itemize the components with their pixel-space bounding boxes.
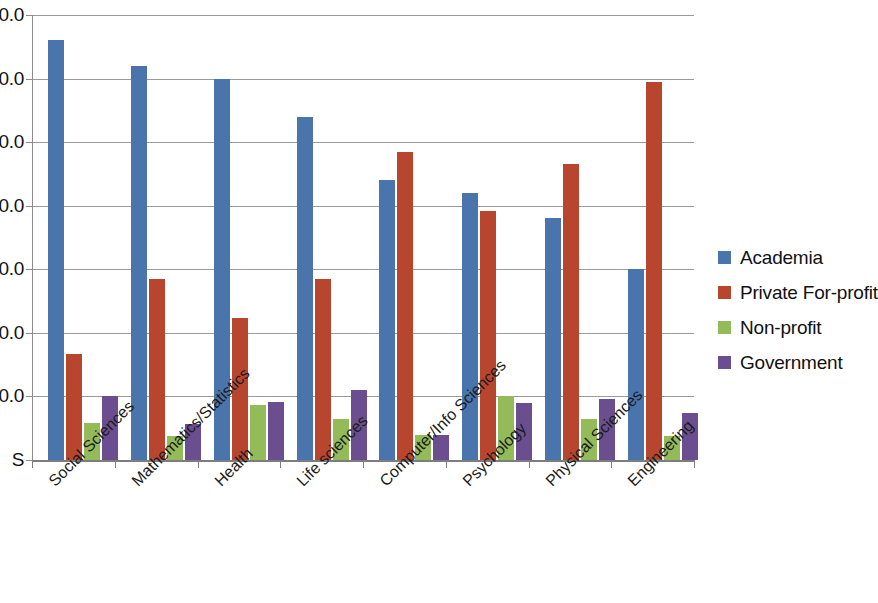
x-tick-mark bbox=[363, 460, 364, 468]
bar bbox=[379, 180, 395, 460]
bar bbox=[315, 279, 331, 460]
bar bbox=[131, 66, 147, 460]
x-tick-mark bbox=[446, 460, 447, 468]
x-tick-mark bbox=[529, 460, 530, 468]
x-tick-mark bbox=[694, 460, 695, 468]
bar-group bbox=[545, 15, 615, 460]
legend-label: Academia bbox=[740, 247, 823, 269]
legend-item[interactable]: Private For-profit bbox=[718, 275, 878, 310]
x-tick-mark bbox=[32, 460, 33, 468]
x-tick-mark bbox=[611, 460, 612, 468]
bar bbox=[397, 152, 413, 460]
bar bbox=[646, 82, 662, 460]
legend-swatch-icon bbox=[718, 356, 731, 369]
legend-label: Non-profit bbox=[740, 317, 821, 339]
y-tick-label: 70.0 bbox=[0, 5, 24, 24]
bar bbox=[268, 402, 284, 460]
legend-item[interactable]: Academia bbox=[718, 240, 878, 275]
y-tick-label: S bbox=[0, 450, 24, 469]
bar-chart: 70.060.050.040.030.020.010.0S Social Sci… bbox=[0, 0, 878, 603]
y-tick-label: 30.0 bbox=[0, 259, 24, 278]
x-tick-mark bbox=[198, 460, 199, 468]
bar bbox=[480, 211, 496, 460]
bar bbox=[462, 193, 478, 460]
chart-legend: AcademiaPrivate For-profitNon-profitGove… bbox=[718, 240, 878, 380]
bar bbox=[628, 269, 644, 460]
x-tick-mark bbox=[280, 460, 281, 468]
y-tick-label: 20.0 bbox=[0, 323, 24, 342]
legend-label: Government bbox=[740, 352, 843, 374]
bar-group bbox=[48, 15, 118, 460]
plot-area bbox=[32, 15, 694, 460]
legend-swatch-icon bbox=[718, 286, 731, 299]
legend-item[interactable]: Non-profit bbox=[718, 310, 878, 345]
bar bbox=[563, 164, 579, 460]
y-tick-label: 10.0 bbox=[0, 386, 24, 405]
bar bbox=[250, 405, 266, 460]
y-tick-label: 40.0 bbox=[0, 196, 24, 215]
bar bbox=[297, 117, 313, 460]
legend-label: Private For-profit bbox=[740, 282, 878, 304]
y-tick-label: 60.0 bbox=[0, 69, 24, 88]
bar-group bbox=[131, 15, 201, 460]
bar bbox=[48, 40, 64, 460]
bar bbox=[545, 218, 561, 460]
bar bbox=[149, 279, 165, 460]
legend-swatch-icon bbox=[718, 321, 731, 334]
x-tick-mark bbox=[115, 460, 116, 468]
legend-swatch-icon bbox=[718, 251, 731, 264]
legend-item[interactable]: Government bbox=[718, 345, 878, 380]
y-tick-label: 50.0 bbox=[0, 132, 24, 151]
bar-group bbox=[379, 15, 449, 460]
bar-group bbox=[297, 15, 367, 460]
